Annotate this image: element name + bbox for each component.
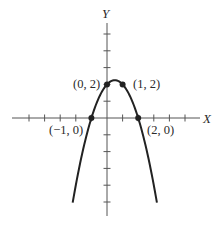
- point-label-1-2: (1, 2): [133, 77, 160, 91]
- point-marker: [120, 81, 126, 87]
- point-label-neg1-0: (−1, 0): [49, 123, 83, 137]
- parabola-curve: [73, 80, 157, 202]
- point-marker: [135, 115, 141, 121]
- parabola-chart: X Y (0, 2) (1, 2) (−1, 0) (2, 0): [0, 0, 224, 226]
- point-label-2-0: (2, 0): [147, 123, 174, 137]
- point-marker: [88, 115, 94, 121]
- point-label-0-2: (0, 2): [73, 77, 100, 91]
- y-axis-label: Y: [102, 6, 111, 21]
- x-axis-label: X: [202, 111, 212, 126]
- point-marker: [104, 81, 110, 87]
